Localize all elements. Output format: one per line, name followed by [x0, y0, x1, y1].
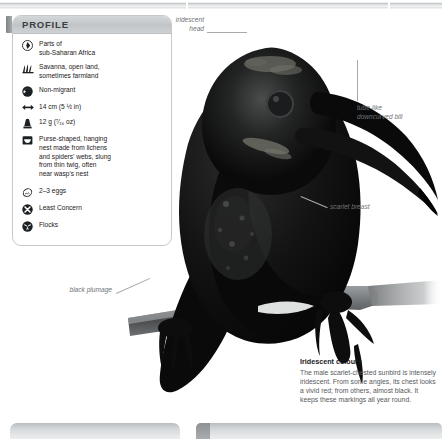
- profile-row-status: Least Concern: [20, 204, 164, 215]
- breast-iridescence: [204, 188, 272, 280]
- caption-body: The male scarlet-chested sunbird is inte…: [300, 368, 438, 404]
- profile-row-nest-text: Purse-shaped, hanging nest made from lic…: [35, 135, 111, 178]
- bottom-panel-right[interactable]: [196, 423, 442, 439]
- profile-row-range-text: Parts of sub-Saharan Africa: [35, 40, 95, 57]
- profile-row-weight: 12 g (⁷⁄₁₆ oz): [20, 118, 164, 129]
- profile-row-social-text: Flocks: [35, 221, 58, 230]
- egg-icon: [20, 187, 35, 198]
- migration-icon: [20, 86, 35, 97]
- profile-row-social: Flocks: [20, 221, 164, 232]
- profile-row-status-text: Least Concern: [35, 204, 82, 213]
- bottom-panel-tab-cap: [196, 423, 210, 439]
- bottom-panel-left[interactable]: [10, 423, 180, 439]
- profile-row-weight-text: 12 g (⁷⁄₁₆ oz): [35, 118, 75, 127]
- profile-panel: PROFILE Parts of sub-Saharan Africa: [12, 15, 172, 246]
- eye: [266, 90, 294, 118]
- nest-icon: [20, 135, 35, 146]
- annotation-breast: scarlet breast: [330, 203, 410, 212]
- profile-panel-body: Parts of sub-Saharan Africa Savanna, ope…: [13, 34, 171, 245]
- caption-block: Iridescent colours The male scarlet-ches…: [300, 357, 438, 404]
- top-page-rule-shadow: [0, 7, 442, 9]
- annotation-bill: tube-like downcurved bill: [357, 104, 437, 121]
- profile-row-nest: Purse-shaped, hanging nest made from lic…: [20, 135, 164, 178]
- flock-icon: [20, 221, 35, 232]
- leader-line-bill: [357, 60, 358, 101]
- globe-range-icon: [20, 40, 35, 51]
- profile-row-migration-text: Non-migrant: [35, 86, 75, 95]
- profile-row-habitat: Savanna, open land, sometimes farmland: [20, 63, 164, 80]
- profile-row-habitat-text: Savanna, open land, sometimes farmland: [35, 63, 100, 80]
- leader-line-head: [207, 32, 247, 33]
- profile-row-length: 14 cm (5 ½ in): [20, 103, 164, 112]
- profile-row-length-text: 14 cm (5 ½ in): [35, 103, 81, 112]
- profile-row-eggs: 2–3 eggs: [20, 187, 164, 198]
- profile-panel-header: PROFILE: [13, 16, 171, 34]
- profile-row-eggs-text: 2–3 eggs: [35, 187, 66, 196]
- profile-row-range: Parts of sub-Saharan Africa: [20, 40, 164, 57]
- annotation-head: iridescent head: [150, 16, 204, 33]
- conservation-status-icon: [20, 204, 35, 215]
- page-root: PROFILE Parts of sub-Saharan Africa: [0, 0, 442, 439]
- top-rule-notch-left: [186, 2, 188, 9]
- caption-title: Iridescent colours: [300, 357, 438, 366]
- weight-icon: [20, 118, 35, 129]
- length-arrows-icon: [20, 103, 35, 112]
- profile-title: PROFILE: [22, 19, 69, 30]
- top-rule-notch-right: [388, 2, 390, 9]
- annotation-plumage: black plumage: [48, 286, 112, 295]
- grassland-habitat-icon: [20, 63, 35, 74]
- profile-row-migration: Non-migrant: [20, 86, 164, 97]
